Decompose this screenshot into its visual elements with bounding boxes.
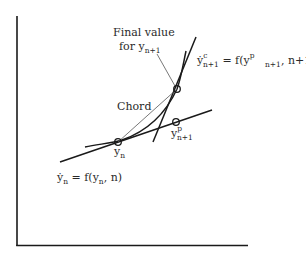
final-value-label-line2: for yn+1 — [119, 40, 161, 55]
deriv-c-lhs-sup: c — [203, 51, 207, 60]
deriv-n-eq: = f(y — [68, 171, 100, 184]
y-pred-sub: n+1 — [177, 133, 193, 142]
deriv-c-arg-sup: p — [250, 51, 255, 60]
deriv-c-lhs-sub: n+1 — [203, 60, 219, 69]
chord-line — [118, 89, 177, 142]
chord-label: Chord — [117, 100, 151, 113]
y-n-sub: n — [120, 151, 125, 160]
final-value-label-line1: Final value — [113, 26, 175, 39]
derivative-n-equation: ẏn = f(yn, n) — [56, 171, 122, 186]
y-pred-sup: p — [177, 124, 182, 133]
final-value-label-sub: n+1 — [145, 46, 161, 55]
deriv-c-tail: , n+1) — [281, 54, 306, 67]
y-pred-label: ypn+1 — [170, 124, 193, 142]
y-n-label: yn — [113, 145, 125, 160]
deriv-c-arg-sub: n+1 — [265, 60, 281, 69]
predictor-corrector-diagram: Final value for yn+1 Chord yn ypn+1 ẏn =… — [0, 0, 306, 257]
deriv-n-tail: , n) — [104, 171, 122, 184]
derivative-c-equation: ẏcn+1 = f(ypn+1, n+1) — [196, 51, 306, 69]
deriv-c-eq: = f(y — [219, 54, 251, 67]
final-value-leader — [157, 54, 175, 86]
final-value-label-main: for y — [119, 40, 145, 53]
